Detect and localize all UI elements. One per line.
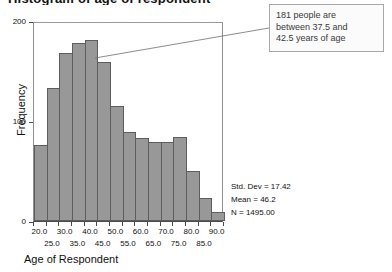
callout-box: 181 people are between 37.5 and 42.5 yea…	[269, 4, 384, 52]
callout-line-1: 181 people are	[276, 10, 377, 22]
figure-title: Histogram of age of respondent	[8, 0, 238, 5]
y-tick-label: 0	[0, 218, 26, 226]
histogram-bar	[135, 138, 149, 221]
histogram-bar	[148, 142, 162, 221]
histogram-bar	[186, 171, 200, 221]
x-tick-mark	[210, 222, 211, 226]
y-tick-label: 200	[0, 18, 26, 26]
histogram-bar	[161, 142, 175, 221]
x-tick-mark	[134, 222, 135, 226]
x-tick-mark	[122, 222, 123, 226]
histogram-bar	[72, 43, 86, 221]
histogram-bar	[211, 212, 225, 221]
stat-n: N = 1495.00	[231, 206, 291, 219]
histogram-bars	[34, 23, 222, 221]
x-tick-mark	[46, 222, 47, 226]
x-tick-mark	[33, 222, 34, 226]
histogram-figure: Histogram of age of respondent Frequency…	[0, 0, 392, 272]
x-tick-mark	[172, 222, 173, 226]
stat-mean: Mean = 46.2	[231, 193, 291, 206]
histogram-bar	[47, 88, 61, 221]
callout-line-2: between 37.5 and	[276, 22, 377, 34]
x-tick-mark	[84, 222, 85, 226]
histogram-bar	[97, 62, 111, 221]
x-tick-label: 90.0	[202, 227, 232, 236]
stat-std-dev: Std. Dev = 17.42	[231, 180, 291, 193]
histogram-bar	[34, 145, 48, 221]
x-tick-mark	[185, 222, 186, 226]
y-tick-label: 100	[0, 118, 26, 126]
x-tick-mark	[223, 222, 224, 226]
x-tick-mark	[198, 222, 199, 226]
histogram-bar	[123, 132, 137, 221]
histogram-bar	[85, 40, 99, 221]
histogram-bar	[110, 106, 124, 221]
x-tick-mark	[96, 222, 97, 226]
histogram-bar	[173, 137, 187, 221]
histogram-bar	[199, 198, 213, 221]
x-tick-mark	[160, 222, 161, 226]
x-axis-title: Age of Respondent	[24, 253, 118, 265]
callout-line-3: 42.5 years of age	[276, 33, 377, 45]
plot-area	[33, 22, 223, 222]
x-tick-label: 85.0	[189, 239, 219, 248]
x-tick-mark	[109, 222, 110, 226]
histogram-bar	[59, 53, 73, 221]
x-tick-mark	[147, 222, 148, 226]
x-tick-mark	[71, 222, 72, 226]
statistics-block: Std. Dev = 17.42 Mean = 46.2 N = 1495.00	[231, 180, 291, 219]
y-axis-title: Frequency	[15, 55, 27, 165]
x-tick-mark	[58, 222, 59, 226]
